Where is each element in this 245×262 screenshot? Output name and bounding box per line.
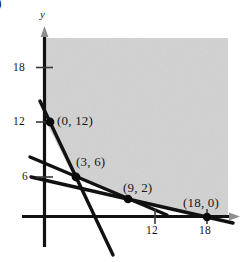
data-point-3-6[interactable] [72, 173, 81, 182]
x-tick-label-18: 18 [199, 225, 211, 237]
y-tick-label-12: 12 [13, 116, 25, 128]
graph-figure [0, 0, 245, 262]
y-axis-label: y [40, 9, 45, 20]
point-label-9-2: (9, 2) [123, 181, 152, 194]
data-point-18-0[interactable] [203, 213, 211, 221]
point-label-0-12: (0, 12) [57, 114, 93, 127]
data-point-9-2[interactable] [124, 195, 132, 203]
y-tick-label-6: 6 [22, 171, 28, 183]
point-label-18-0: (18, 0) [183, 196, 219, 209]
data-point-0-12[interactable] [46, 118, 55, 127]
coordinate-plane-svg [0, 0, 245, 262]
point-label-3-6: (3, 6) [76, 155, 105, 168]
x-tick-label-12: 12 [146, 225, 158, 237]
x-axis-arrowhead [229, 212, 240, 220]
y-axis-arrowhead [41, 26, 49, 37]
y-tick-label-18: 18 [13, 62, 25, 74]
